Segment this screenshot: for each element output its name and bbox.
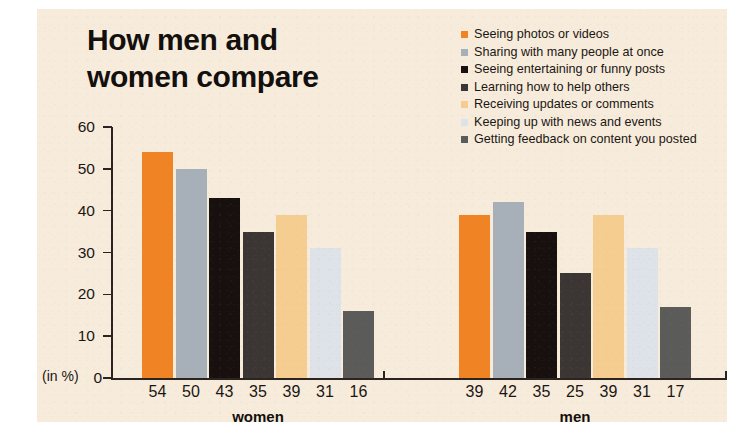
y-axis-tick-label: 50 bbox=[37, 160, 95, 178]
bar bbox=[593, 215, 624, 378]
bar bbox=[243, 232, 274, 378]
bar bbox=[343, 311, 374, 378]
bar bbox=[493, 202, 524, 378]
group-label: men bbox=[515, 408, 635, 422]
bar bbox=[526, 232, 557, 378]
y-axis-tick-label: 20 bbox=[37, 285, 95, 303]
plot-area: (in %) 0102030405060 5450433539311639423… bbox=[37, 9, 727, 422]
y-axis-tick-label: 0 bbox=[42, 369, 102, 387]
bar-value-label: 17 bbox=[656, 383, 696, 401]
bars-container bbox=[111, 127, 727, 378]
bar bbox=[209, 198, 240, 378]
y-axis-tick-label: 40 bbox=[37, 202, 95, 220]
bar bbox=[310, 248, 341, 378]
y-axis-tick-label: 60 bbox=[37, 118, 95, 136]
bar bbox=[176, 169, 207, 378]
y-axis-tick-label: 30 bbox=[37, 244, 95, 262]
y-axis-tick-label: 10 bbox=[37, 327, 95, 345]
bar bbox=[276, 215, 307, 378]
group-label: women bbox=[198, 408, 318, 422]
chart-panel: How men and women compare Seeing photos … bbox=[37, 9, 727, 422]
bar bbox=[560, 273, 591, 378]
bar bbox=[627, 248, 658, 378]
bar bbox=[459, 215, 490, 378]
bar bbox=[142, 152, 173, 378]
x-axis-line bbox=[111, 378, 727, 380]
bar bbox=[660, 307, 691, 378]
bar-value-label: 16 bbox=[339, 383, 379, 401]
chart-page: How men and women compare Seeing photos … bbox=[0, 0, 749, 445]
